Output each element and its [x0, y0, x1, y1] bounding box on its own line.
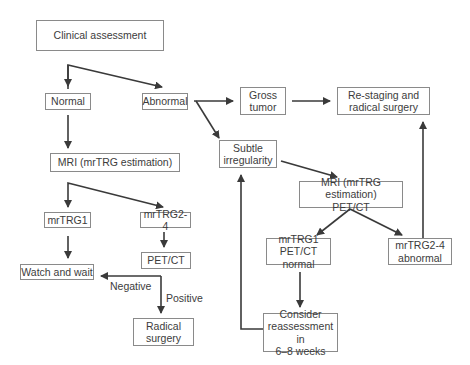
node-clinical-assessment: Clinical assessment — [36, 20, 164, 51]
edge-label-negative: Negative — [110, 280, 151, 292]
node-gross-tumor: Gross tumor — [240, 87, 286, 115]
node-mri-petct-right: MRI (mrTRG estimation) PET/CT — [299, 181, 403, 208]
node-mri-left: MRI (mrTRG estimation) — [50, 153, 180, 172]
node-petct-left: PET/CT — [141, 252, 191, 269]
node-watch-and-wait: Watch and wait — [20, 264, 94, 280]
node-abnormal: Abnormal — [142, 93, 188, 110]
node-normal: Normal — [45, 93, 91, 110]
node-subtle-irregularity: Subtle irregularity — [219, 140, 277, 168]
node-mrtrg1-right: mrTRG1 PET/CT normal — [266, 238, 331, 265]
node-mrtrg24-left: mrTRG2-4 — [140, 212, 191, 228]
node-mrtrg1-left: mrTRG1 — [44, 212, 91, 228]
node-mrtrg24-right: mrTRG2-4 abnormal — [388, 238, 452, 265]
node-radical-surgery: Radical surgery — [133, 318, 194, 346]
edge-label-positive: Positive — [166, 292, 203, 304]
node-reassessment: Consider reassessment in 6–8 weeks — [263, 313, 338, 352]
node-restaging: Re-staging and radical surgery — [337, 87, 430, 115]
